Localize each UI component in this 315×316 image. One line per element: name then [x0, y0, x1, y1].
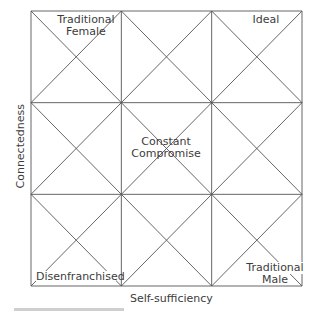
y-axis-label: Connectedness	[14, 109, 27, 189]
label-line: Male	[243, 274, 307, 286]
label-ideal: Ideal	[246, 14, 286, 26]
label-traditional-female: Traditional Female	[50, 14, 122, 38]
label-constant-compromise: Constant Compromise	[126, 136, 206, 160]
figure-caption-cutoff	[14, 306, 124, 314]
label-line: Female	[50, 26, 122, 38]
label-line: Ideal	[246, 14, 286, 26]
x-axis-label: Self-sufficiency	[130, 292, 213, 305]
label-disenfranchised: Disenfranchised	[36, 271, 116, 283]
label-line: Disenfranchised	[36, 271, 116, 283]
label-line: Compromise	[126, 148, 206, 160]
label-traditional-male: Traditional Male	[243, 262, 307, 286]
